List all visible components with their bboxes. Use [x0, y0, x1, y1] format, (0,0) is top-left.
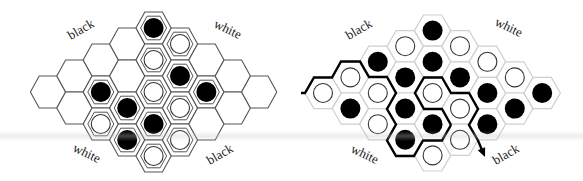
white-stone: [314, 84, 333, 103]
side-label-white: white: [349, 141, 382, 167]
white-stone: [144, 147, 163, 166]
black-stone: [505, 99, 525, 119]
black-stone: [477, 83, 497, 103]
board-right: blackwhitewhiteblack: [301, 14, 560, 171]
side-label-black: black: [343, 15, 375, 42]
side-label-black: black: [65, 15, 97, 42]
scan-band: [0, 131, 583, 141]
black-stone: [144, 18, 164, 38]
white-stone: [144, 51, 163, 70]
black-stone: [196, 82, 216, 102]
white-stone: [505, 68, 524, 87]
side-label-black: black: [204, 140, 236, 167]
side-label-white: white: [212, 16, 245, 42]
black-stone: [91, 82, 111, 102]
side-label-black: black: [490, 140, 522, 167]
black-stone: [395, 99, 415, 119]
white-stone: [478, 52, 497, 71]
white-stone: [451, 37, 470, 56]
side-label-white: white: [71, 140, 104, 166]
black-stone: [532, 83, 552, 103]
white-stone: [396, 37, 415, 56]
white-stone: [423, 84, 442, 103]
white-stone: [144, 83, 163, 102]
black-stone: [450, 67, 470, 87]
white-stone: [171, 35, 190, 54]
hex-boards-canvas: blackwhitewhiteblack blackwhitewhiteblac…: [0, 0, 583, 181]
white-stone: [171, 99, 190, 118]
white-stone: [451, 99, 470, 118]
white-stone: [341, 68, 360, 87]
black-stone: [340, 99, 360, 119]
black-stone: [423, 52, 443, 72]
board-left: blackwhitewhiteblack: [30, 12, 276, 172]
black-stone: [117, 98, 137, 118]
black-stone: [170, 66, 190, 86]
white-stone: [368, 84, 387, 103]
black-stone: [368, 52, 388, 72]
side-label-white: white: [493, 14, 526, 40]
hex-diagram: blackwhitewhiteblack blackwhitewhiteblac…: [0, 0, 583, 181]
black-stone: [395, 67, 415, 87]
white-stone: [423, 146, 442, 165]
black-stone: [423, 21, 443, 41]
